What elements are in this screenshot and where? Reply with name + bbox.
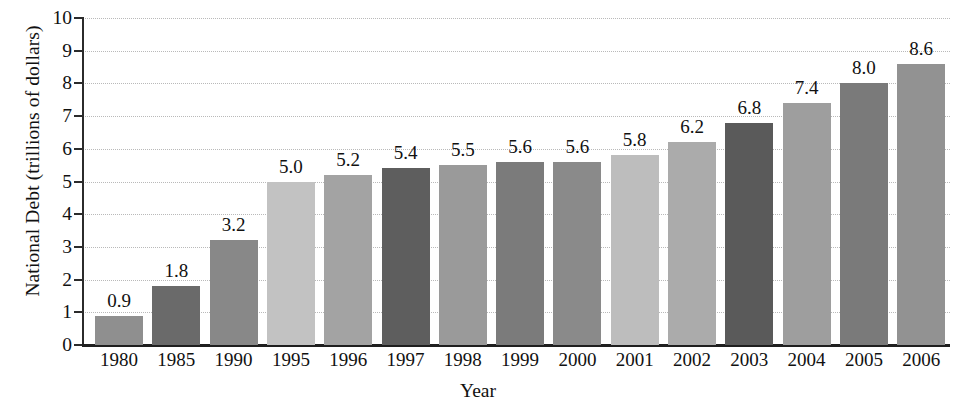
bar-value-label: 8.6 bbox=[891, 39, 951, 58]
y-tick-label: 3 bbox=[44, 237, 72, 257]
bar bbox=[210, 240, 258, 345]
y-tick-label: 1 bbox=[44, 302, 72, 322]
bar-value-label: 8.0 bbox=[834, 58, 894, 77]
x-tick-label: 1985 bbox=[144, 350, 208, 369]
x-tick-label: 2002 bbox=[660, 350, 724, 369]
y-tick-label: 5 bbox=[44, 172, 72, 192]
x-axis-title: Year bbox=[0, 380, 956, 402]
x-tick-label: 2006 bbox=[889, 350, 953, 369]
x-tick-label: 1999 bbox=[488, 350, 552, 369]
bar bbox=[324, 175, 372, 345]
bar bbox=[611, 155, 659, 345]
y-tick-label: 0 bbox=[44, 335, 72, 355]
x-tick-label: 1995 bbox=[259, 350, 323, 369]
bar bbox=[496, 162, 544, 345]
bar-value-label: 7.4 bbox=[777, 78, 837, 97]
y-tick-label: 9 bbox=[44, 41, 72, 61]
bar-value-label: 1.8 bbox=[146, 261, 206, 280]
bar-value-label: 5.0 bbox=[261, 157, 321, 176]
x-tick-label: 2001 bbox=[603, 350, 667, 369]
y-axis-tick-labels: 012345678910 bbox=[40, 0, 72, 412]
y-tick-label: 2 bbox=[44, 270, 72, 290]
bar-value-label: 0.9 bbox=[89, 291, 149, 310]
bar bbox=[152, 286, 200, 345]
bar-value-label: 5.6 bbox=[490, 137, 550, 156]
bar-value-label: 5.8 bbox=[605, 130, 665, 149]
x-tick-label: 2005 bbox=[832, 350, 896, 369]
bar-value-label: 5.6 bbox=[547, 137, 607, 156]
y-tick-label: 6 bbox=[44, 139, 72, 159]
x-tick-label: 1996 bbox=[316, 350, 380, 369]
x-tick-label: 2000 bbox=[545, 350, 609, 369]
y-tick-label: 4 bbox=[44, 204, 72, 224]
y-tick-label: 8 bbox=[44, 73, 72, 93]
bar-value-label: 5.2 bbox=[318, 150, 378, 169]
bar-value-label: 5.5 bbox=[433, 140, 493, 159]
x-tick-label: 1980 bbox=[87, 350, 151, 369]
bar bbox=[553, 162, 601, 345]
bar-value-label: 3.2 bbox=[204, 215, 264, 234]
y-tick-label: 10 bbox=[44, 8, 72, 28]
bar bbox=[897, 64, 945, 345]
x-tick-label: 2004 bbox=[775, 350, 839, 369]
x-tick-label: 1990 bbox=[202, 350, 266, 369]
bar bbox=[725, 123, 773, 345]
bar-value-label: 6.8 bbox=[719, 98, 779, 117]
bar bbox=[840, 83, 888, 345]
bar bbox=[668, 142, 716, 345]
bar-chart: National Debt (trillions of dollars) 012… bbox=[0, 0, 956, 412]
bar bbox=[439, 165, 487, 345]
x-tick-label: 1997 bbox=[374, 350, 438, 369]
bar bbox=[783, 103, 831, 345]
bar bbox=[95, 316, 143, 345]
plot-area bbox=[83, 18, 950, 345]
x-tick-label: 2003 bbox=[717, 350, 781, 369]
y-tick-label: 7 bbox=[44, 106, 72, 126]
bar bbox=[267, 182, 315, 346]
bar-value-label: 6.2 bbox=[662, 117, 722, 136]
bar bbox=[382, 168, 430, 345]
bar-value-label: 5.4 bbox=[376, 143, 436, 162]
x-tick-label: 1998 bbox=[431, 350, 495, 369]
